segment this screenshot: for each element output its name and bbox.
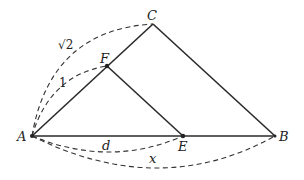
- label-AB-length: x: [149, 151, 157, 166]
- label-E: E: [177, 139, 188, 154]
- segment-BC: [153, 24, 275, 136]
- segment-AC: [32, 24, 153, 136]
- geometry-diagram: A B C F E √2 1 d x: [0, 0, 304, 180]
- label-A: A: [16, 129, 26, 144]
- point-A: [30, 134, 34, 138]
- label-AC-length: √2: [58, 38, 73, 52]
- label-F: F: [99, 51, 110, 66]
- segment-FE: [107, 66, 183, 136]
- label-B: B: [278, 129, 289, 144]
- label-AE-length: d: [102, 138, 110, 153]
- label-AF-length: 1: [59, 76, 67, 90]
- point-B: [274, 135, 277, 138]
- label-C: C: [147, 8, 157, 23]
- point-E: [181, 134, 185, 138]
